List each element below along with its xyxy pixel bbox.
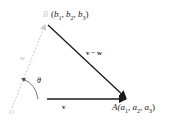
label-origin: O: [9, 108, 14, 116]
label-B-coordinates: (b1, b2, b3): [51, 9, 89, 21]
angle-theta-arc: [23, 79, 38, 99]
label-A-coordinates: A(a1, a2, a3): [111, 102, 155, 114]
label-theta: θ: [37, 76, 41, 85]
label-v: v: [62, 103, 66, 111]
b-coord-close: ): [86, 9, 89, 19]
label-w: w: [20, 54, 26, 62]
label-v-minus-w: v − w: [86, 49, 103, 57]
a-coord-close: ): [152, 102, 155, 112]
vector-w-line: [12, 25, 45, 108]
vector-v-minus-w-line: [48, 25, 126, 98]
label-B: B: [43, 10, 48, 19]
vector-diagram: O w B (b1, b2, b3) v − w v θ A(a1, a2, a…: [0, 0, 171, 122]
